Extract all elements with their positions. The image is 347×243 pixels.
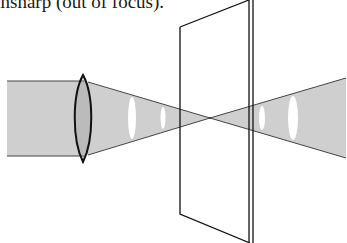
highlight-ellipse xyxy=(161,107,166,129)
convex-lens xyxy=(75,75,92,162)
converging-cone xyxy=(84,81,210,156)
highlight-ellipse xyxy=(288,96,298,140)
optics-diagram xyxy=(0,0,347,243)
focal-point xyxy=(209,117,211,119)
diverging-cone xyxy=(210,78,346,158)
incoming-parallel-beam xyxy=(7,81,85,156)
highlight-ellipse xyxy=(128,97,136,139)
highlight-ellipse xyxy=(259,106,265,130)
